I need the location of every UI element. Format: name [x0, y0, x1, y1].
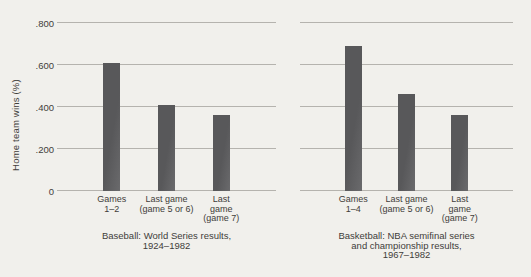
bar-last-game-game-5-or-6-	[158, 105, 175, 191]
y-axis-tick-label: .200	[16, 144, 54, 155]
y-axis-title: Home team wins (%)	[10, 55, 22, 195]
chart-caption-line: 1967–1982	[300, 250, 513, 260]
category-label: Lastgame(game 7)	[415, 195, 505, 224]
gridline	[57, 64, 276, 65]
home-advantage-figure: Home team wins (%) 0.200.400.600.800 Bas…	[0, 0, 531, 277]
basketball-caption: Basketball: NBA semifinal seriesand cham…	[300, 231, 513, 260]
bar-games-1-2	[103, 63, 120, 191]
bar-games-1-4	[345, 46, 362, 191]
y-axis-tick-label: .400	[16, 102, 54, 113]
gridline	[300, 64, 513, 65]
bar-last-game-game-7-	[451, 115, 468, 191]
bar-last-game-game-7-	[213, 115, 230, 191]
y-axis-tick-label: .600	[16, 60, 54, 71]
chart-caption-line: 1924–1982	[57, 241, 276, 251]
category-label-line: (game 7)	[415, 214, 505, 224]
basketball-plot-area	[300, 23, 513, 191]
y-axis-tick-label: .800	[16, 18, 54, 29]
baseball-plot-area	[57, 23, 276, 191]
baseball-caption: Baseball: World Series results,1924–1982	[57, 231, 276, 250]
gridline	[300, 22, 513, 23]
category-label: Lastgame(game 7)	[176, 195, 266, 224]
bar-last-game-game-5-or-6-	[398, 94, 415, 191]
y-axis-tick-label: 0	[16, 186, 54, 197]
gridline	[57, 22, 276, 23]
category-label-line: (game 7)	[176, 214, 266, 224]
